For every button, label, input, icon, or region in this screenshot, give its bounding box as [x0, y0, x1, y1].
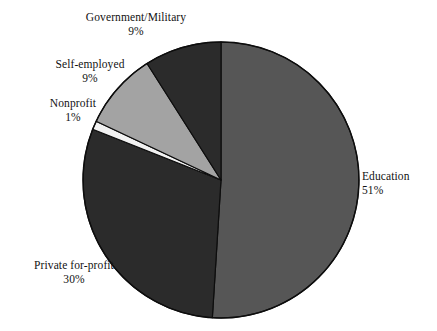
pie-chart-figure: Government/Military 9% Self-employed 9% … — [0, 0, 437, 331]
slice-label-percent: 51% — [362, 184, 436, 198]
slice-label-name: Nonprofit — [18, 97, 128, 111]
slice-label-nonprofit: Nonprofit 1% — [18, 97, 128, 124]
slice-label-name: Education — [362, 170, 436, 184]
slice-label-name: Self-employed — [28, 58, 152, 72]
slice-label-name: Government/Military — [66, 11, 206, 25]
slice-label-percent: 30% — [10, 273, 138, 287]
slice-label-percent: 1% — [18, 111, 128, 125]
pie-slice-education — [212, 42, 359, 318]
slice-label-private-for-profit: Private for-profit 30% — [10, 259, 138, 286]
slice-label-education: Education 51% — [362, 170, 436, 197]
slice-label-self-employed: Self-employed 9% — [28, 58, 152, 85]
slice-label-government-military: Government/Military 9% — [66, 11, 206, 38]
slice-label-percent: 9% — [66, 25, 206, 39]
slice-label-percent: 9% — [28, 72, 152, 86]
slice-label-name: Private for-profit — [10, 259, 138, 273]
